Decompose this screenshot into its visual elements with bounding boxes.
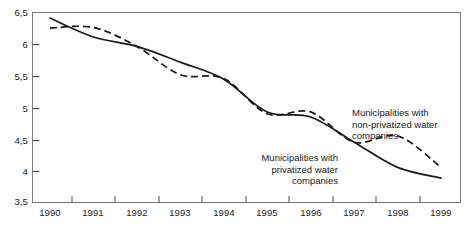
y-axis-label-5-5: 5,5: [0, 72, 28, 82]
x-axis-label-1991: 1991: [71, 208, 115, 218]
y-axis-ticks: [33, 45, 40, 172]
x-axis-label-1994: 1994: [202, 208, 246, 218]
y-axis-label-4: 4: [0, 167, 28, 177]
y-axis-label-6-5: 6,5: [0, 8, 28, 18]
x-axis-label-1993: 1993: [158, 208, 202, 218]
x-axis-label-1998: 1998: [376, 208, 420, 218]
y-axis-label-4-5: 4,5: [0, 136, 28, 146]
y-axis-label-5: 5: [0, 104, 28, 114]
series-annotation-non-privatized: Municipalities with non-privatized water…: [352, 107, 438, 142]
x-axis-label-1996: 1996: [289, 208, 333, 218]
x-axis-label-1990: 1990: [28, 208, 72, 218]
y-axis-label-3-5: 3,5: [0, 197, 28, 207]
x-axis-label-1997: 1997: [332, 208, 376, 218]
x-axis-label-1995: 1995: [245, 208, 289, 218]
x-axis-label-1992: 1992: [115, 208, 159, 218]
x-axis-label-1999: 1999: [419, 208, 463, 218]
series-annotation-privatized: Municipalities with privatized water com…: [216, 152, 338, 187]
chart-container: 6,5 6 5,5 5 4,5 4 3,5 1990 1991 1992 199…: [0, 0, 474, 231]
series-line-non-privatized: [50, 26, 441, 167]
x-axis-ticks: [72, 196, 420, 203]
y-axis-label-6: 6: [0, 40, 28, 50]
